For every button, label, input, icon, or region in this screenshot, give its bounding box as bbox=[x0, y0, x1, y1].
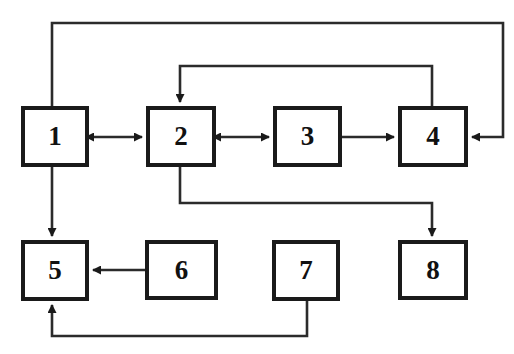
block-node-label-8: 8 bbox=[426, 257, 440, 284]
block-node-label-3: 3 bbox=[301, 123, 315, 150]
block-node-label-1: 1 bbox=[48, 123, 62, 150]
block-node-label-2: 2 bbox=[174, 123, 188, 150]
block-node-label-4: 4 bbox=[426, 123, 440, 150]
block-node-label-5: 5 bbox=[48, 257, 62, 284]
block-node-2[interactable]: 2 bbox=[146, 106, 216, 167]
block-diagram: 12345678 bbox=[0, 0, 514, 354]
block-node-label-7: 7 bbox=[299, 257, 313, 284]
connector-7-to-5 bbox=[52, 301, 307, 336]
block-node-3[interactable]: 3 bbox=[273, 106, 342, 167]
block-node-6[interactable]: 6 bbox=[145, 240, 218, 300]
block-node-1[interactable]: 1 bbox=[21, 106, 89, 167]
connector-4-to-2 bbox=[180, 66, 432, 106]
block-node-label-6: 6 bbox=[175, 257, 189, 284]
connector-2-to-8 bbox=[180, 167, 432, 236]
block-node-8[interactable]: 8 bbox=[398, 240, 468, 300]
block-node-5[interactable]: 5 bbox=[21, 240, 89, 301]
block-node-7[interactable]: 7 bbox=[272, 240, 340, 301]
block-node-4[interactable]: 4 bbox=[398, 106, 468, 167]
